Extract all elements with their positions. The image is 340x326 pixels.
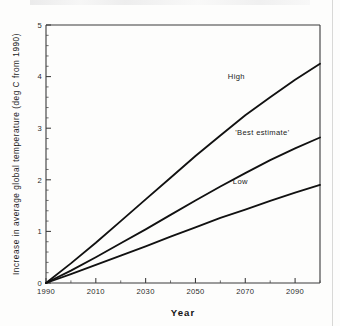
y-tick-label: 1 <box>37 227 42 236</box>
y-tick-label: 3 <box>37 124 42 133</box>
series-annotation-best-estimate: 'Best estimate' <box>235 128 289 137</box>
axis-frame <box>46 25 320 283</box>
x-axis-ticks <box>46 278 320 283</box>
x-tick-label: 2010 <box>87 287 105 296</box>
chart-plot-area: 012345 199020102030205020702090 High'Bes… <box>0 0 340 326</box>
x-tick-label: 2090 <box>286 287 304 296</box>
x-tick-label: 2050 <box>186 287 204 296</box>
series-annotation-high: High <box>228 72 245 81</box>
y-axis-tick-labels: 012345 <box>37 21 42 288</box>
y-tick-label: 4 <box>37 72 42 81</box>
series-annotation-low: Low <box>233 177 248 186</box>
y-tick-label: 5 <box>37 21 42 30</box>
x-tick-label: 2030 <box>137 287 155 296</box>
series-line-best-estimate <box>46 137 320 283</box>
series-lines <box>46 64 320 283</box>
series-line-low <box>46 185 320 283</box>
x-axis-title: Year <box>171 307 196 318</box>
x-tick-label: 2070 <box>236 287 254 296</box>
y-axis-title: Increase in average global temperature (… <box>12 33 21 275</box>
y-tick-label: 2 <box>37 176 42 185</box>
x-axis-tick-labels: 199020102030205020702090 <box>37 287 304 296</box>
series-line-high <box>46 64 320 283</box>
x-tick-label: 1990 <box>37 287 55 296</box>
y-axis-ticks <box>46 25 51 283</box>
chart-figure: 012345 199020102030205020702090 High'Bes… <box>0 0 340 326</box>
